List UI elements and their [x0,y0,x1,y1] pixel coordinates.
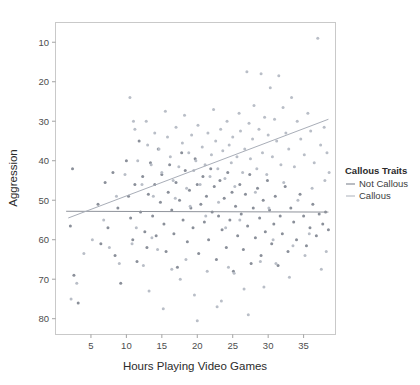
data-point [175,126,178,129]
data-point [115,195,118,198]
data-point [316,37,319,40]
data-point [70,297,73,300]
data-point [72,274,75,277]
data-point [145,120,148,123]
data-point [238,112,241,115]
data-point [256,187,259,190]
data-point [271,155,274,158]
data-point [250,262,253,265]
data-point [138,139,141,142]
data-point [187,151,190,154]
data-point [304,254,307,257]
data-point [142,264,145,267]
data-point [125,159,128,162]
data-point [291,244,294,247]
y-tick-label: 10 [38,37,49,48]
data-point [296,120,299,123]
data-point [183,114,186,117]
data-point [225,246,228,249]
data-point [270,242,273,245]
data-point [252,104,255,107]
x-tick-label: 5 [88,340,93,351]
data-point [262,199,265,202]
data-point [189,205,192,208]
data-point [135,226,138,229]
data-point [231,191,234,194]
data-point [252,207,255,210]
data-point [118,262,121,265]
data-point [177,165,180,168]
data-point [265,173,268,176]
data-point [69,224,72,227]
x-tick-label: 10 [121,340,132,351]
data-point [226,120,229,123]
x-tick-label: 20 [192,340,203,351]
y-tick-label: 40 [38,155,49,166]
data-point [190,134,193,137]
data-point [231,136,234,139]
data-point [205,195,208,198]
data-point [308,226,311,229]
data-point [165,250,168,253]
y-tick-label: 70 [38,274,49,285]
data-point [305,244,308,247]
data-point [311,187,314,190]
data-point [216,167,219,170]
data-point [320,268,323,271]
data-point [239,130,242,133]
data-point [207,238,210,241]
data-point [188,189,191,192]
x-tick-label: 35 [298,340,309,351]
data-point [140,183,143,186]
data-point [272,222,275,225]
data-point [201,145,204,148]
data-point [206,270,209,273]
data-point [284,132,287,135]
data-point [213,185,216,188]
data-point [311,203,314,206]
data-point [236,234,239,237]
data-point [263,116,266,119]
data-point [143,230,146,233]
legend-item-label: Not Callous [359,178,408,189]
data-point [260,72,263,75]
data-point [308,232,311,235]
data-point [284,185,287,188]
data-point [131,242,134,245]
data-point [267,134,270,137]
data-point [264,230,267,233]
data-point [196,319,199,322]
data-point [169,155,172,158]
data-point [228,218,231,221]
data-point [279,163,282,166]
data-point [209,175,212,178]
data-point [217,201,220,204]
scatter-plot-figure: 8070605040302010 5101520253035 Aggressio… [0,0,420,385]
data-point [193,294,196,297]
data-point [247,313,250,316]
data-point [185,187,188,190]
data-point [181,141,184,144]
data-point [178,199,181,202]
data-point [153,132,156,135]
data-point [215,258,218,261]
data-point [221,149,224,152]
data-point [99,242,102,245]
data-point [319,143,322,146]
data-point [296,199,299,202]
data-point [182,218,185,221]
data-point [292,220,295,223]
plot-canvas: 8070605040302010 5101520253035 Aggressio… [0,0,420,385]
data-point [313,161,316,164]
legend-title: Callous Traits [345,165,407,176]
data-point [248,122,251,125]
data-point [160,171,163,174]
data-point [272,238,275,241]
data-point [180,151,183,154]
data-point [220,299,223,302]
data-point [162,222,165,225]
data-point [148,290,151,293]
data-point [71,167,74,170]
data-point [199,203,202,206]
data-point [104,181,107,184]
